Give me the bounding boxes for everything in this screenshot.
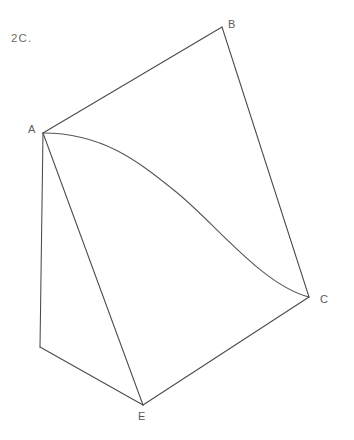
edge-e-d xyxy=(40,347,143,405)
edge-c-e xyxy=(143,297,309,405)
edge-b-c xyxy=(222,27,309,297)
edge-a-b xyxy=(43,27,222,133)
edge-a-e xyxy=(43,133,143,405)
edge-a-c-curve xyxy=(43,133,309,297)
vertex-label-b: B xyxy=(228,19,236,30)
vertex-label-c: C xyxy=(320,294,328,305)
figure-canvas xyxy=(0,0,354,440)
geometry-figure: 2C. A B C E xyxy=(0,0,354,440)
figure-caption: 2C. xyxy=(11,33,32,45)
vertex-label-e: E xyxy=(138,411,146,422)
edge-d-a xyxy=(40,133,43,347)
vertex-label-a: A xyxy=(28,124,36,135)
